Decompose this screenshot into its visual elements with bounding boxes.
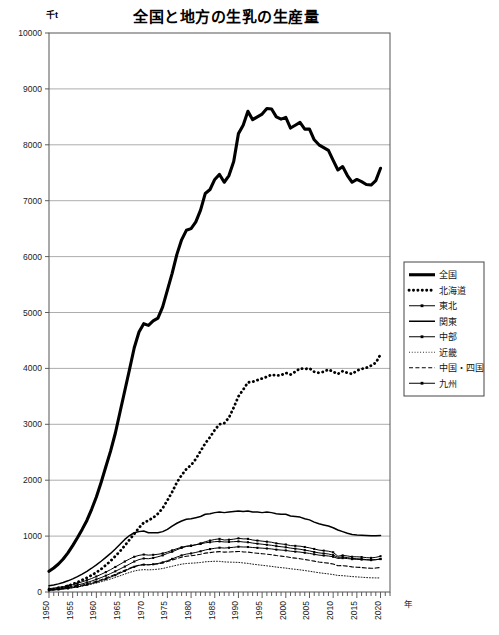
- series-marker: [105, 575, 107, 577]
- series-marker: [162, 561, 164, 563]
- legend-label: 関東: [439, 316, 457, 327]
- x-tick-label: 1995: [254, 601, 264, 620]
- series-marker: [143, 564, 145, 566]
- series-marker: [95, 575, 97, 577]
- y-tick-label: 10000: [18, 28, 42, 38]
- series-marker: [228, 539, 230, 541]
- series-marker: [294, 545, 296, 547]
- series-marker: [247, 546, 249, 548]
- series-marker: [313, 551, 315, 553]
- legend-label: 中部: [439, 331, 457, 342]
- x-tick-label: 1985: [207, 601, 217, 620]
- series-marker: [285, 549, 287, 551]
- x-tick-label: 2015: [349, 601, 359, 620]
- legend-label: 九州: [439, 379, 457, 389]
- series-marker: [275, 545, 277, 547]
- y-tick-label: 8000: [23, 140, 42, 150]
- series-marker: [285, 546, 287, 548]
- y-tick-label: 3000: [23, 419, 42, 429]
- series-marker: [152, 563, 154, 565]
- series-marker: [133, 556, 135, 558]
- series-marker: [351, 558, 353, 560]
- series-marker: [190, 545, 192, 547]
- legend-label: 中国・四国: [439, 362, 484, 373]
- series-marker: [86, 584, 88, 586]
- series-marker: [57, 586, 59, 588]
- series-marker: [171, 558, 173, 560]
- series-marker: [228, 547, 230, 549]
- series-marker: [304, 546, 306, 548]
- series-marker: [323, 552, 325, 554]
- legend-swatch-marker: [421, 335, 424, 338]
- series-marker: [114, 574, 116, 576]
- series-marker: [143, 554, 145, 556]
- legend-swatch-marker: [421, 304, 424, 307]
- legend-label: 近畿: [439, 347, 457, 358]
- legend-label: 北海道: [439, 285, 466, 296]
- series-marker: [200, 543, 202, 545]
- series-marker: [181, 554, 183, 556]
- series-marker: [304, 552, 306, 554]
- x-tick-label: 1955: [65, 601, 75, 620]
- x-tick-label: 1950: [41, 601, 51, 620]
- series-marker: [57, 588, 59, 590]
- x-tick-label: 2010: [325, 601, 335, 620]
- series-marker: [124, 570, 126, 572]
- series-marker: [181, 546, 183, 548]
- series-marker: [124, 560, 126, 562]
- series-marker: [218, 547, 220, 549]
- legend-label: 東北: [439, 300, 457, 311]
- y-tick-label: 0: [37, 587, 42, 597]
- series-marker: [247, 538, 249, 540]
- x-tick-label: 2005: [301, 601, 311, 620]
- legend-label: 全国: [439, 269, 457, 280]
- series-marker: [313, 553, 315, 555]
- series-marker: [86, 579, 88, 581]
- x-tick-label: 1965: [112, 601, 122, 620]
- series-marker: [294, 551, 296, 553]
- milk-production-line-chart: 全国と地方の生乳の生産量 千t 010002000300040005000600…: [0, 0, 499, 635]
- series-marker: [200, 550, 202, 552]
- x-axis-label: 年: [404, 599, 413, 609]
- series-marker: [114, 570, 116, 572]
- series-marker: [48, 589, 50, 591]
- series-marker: [228, 541, 230, 543]
- series-marker: [105, 578, 107, 580]
- series-marker: [209, 541, 211, 543]
- series-marker: [76, 586, 78, 588]
- series-marker: [256, 547, 258, 549]
- series-marker: [105, 571, 107, 573]
- series-marker: [332, 551, 334, 553]
- series-marker: [275, 549, 277, 551]
- series-marker: [162, 554, 164, 556]
- series-marker: [124, 566, 126, 568]
- series-marker: [294, 548, 296, 550]
- series-marker: [152, 557, 154, 559]
- series-marker: [237, 546, 239, 548]
- series-marker: [361, 556, 363, 558]
- series-marker: [247, 541, 249, 543]
- series-marker: [143, 557, 145, 559]
- series-marker: [190, 552, 192, 554]
- y-tick-label: 1000: [23, 531, 42, 541]
- series-marker: [209, 548, 211, 550]
- series-marker: [323, 555, 325, 557]
- series-marker: [76, 582, 78, 584]
- series-marker: [67, 587, 69, 589]
- series-marker: [266, 541, 268, 543]
- legend-box: [404, 262, 484, 396]
- series-marker: [133, 560, 135, 562]
- x-tick-label: 1975: [159, 601, 169, 620]
- series-marker: [237, 540, 239, 542]
- series-marker: [361, 559, 363, 561]
- series-marker: [133, 566, 135, 568]
- x-tick-label: 2000: [278, 601, 288, 620]
- series-marker: [379, 555, 381, 557]
- series-marker: [256, 543, 258, 545]
- x-tick-label: 1990: [230, 601, 240, 620]
- series-marker: [266, 544, 268, 546]
- series-marker: [152, 554, 154, 556]
- x-tick-label: 1970: [136, 601, 146, 620]
- series-marker: [95, 581, 97, 583]
- series-marker: [95, 578, 97, 580]
